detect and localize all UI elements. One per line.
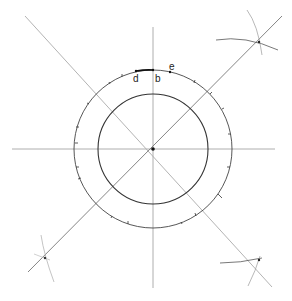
construction-point-sw [44, 257, 46, 259]
geometric-construction-diagram: d b e [0, 0, 292, 301]
construction-arc-ne-1 [216, 39, 278, 50]
construction-arc-se-1 [220, 258, 262, 263]
label-b: b [155, 73, 161, 84]
diagonal-axis-sw-ne [28, 16, 282, 272]
construction-point-se [258, 259, 260, 261]
point-d [135, 70, 137, 72]
diagonal-axis-nw-se [25, 16, 272, 287]
point-b [152, 69, 154, 71]
construction-arc-sw-1 [41, 235, 54, 282]
label-e: e [169, 61, 175, 72]
construction-arc-sw-2 [34, 254, 50, 260]
center-point [151, 147, 155, 151]
construction-point-ne [258, 41, 260, 43]
label-d: d [133, 73, 139, 84]
construction-arc-ne-2 [247, 10, 262, 55]
